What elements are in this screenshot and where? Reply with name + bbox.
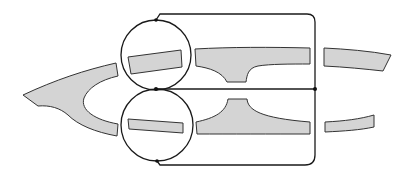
upper-t-section [195, 47, 310, 82]
center-node [154, 87, 158, 91]
lower-circle-strip [128, 119, 183, 133]
left-branch-strip [23, 63, 118, 136]
right-lower-strip [325, 115, 374, 132]
upper-circle-strip [128, 50, 182, 74]
diagram-canvas [0, 0, 410, 176]
bottom-circle-node [155, 159, 159, 163]
right-upper-strip [324, 48, 391, 71]
top-circle-node [154, 18, 158, 22]
bus-node [313, 87, 317, 91]
lower-t-section [196, 99, 310, 134]
